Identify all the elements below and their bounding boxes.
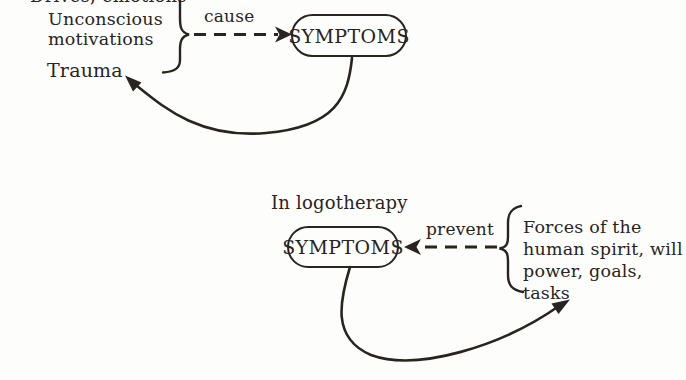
feedback-curve-top	[132, 58, 352, 134]
unconscious-motivations-label: Unconscious motivations	[48, 9, 163, 49]
drives-emotions-label: Drives, emotions	[30, 0, 187, 6]
in-logotherapy-label: In logotherapy	[271, 193, 408, 213]
trauma-label: Trauma	[47, 60, 123, 80]
symptoms-node-top: SYMPTOMS	[291, 14, 407, 57]
causes-brace	[163, 0, 189, 73]
prevent-label: prevent	[426, 219, 494, 239]
symptoms-label-top: SYMPTOMS	[288, 25, 410, 47]
forces-label: Forces of the human spirit, will power, …	[523, 216, 686, 304]
prevent-arrowhead-icon	[404, 239, 421, 255]
symptoms-label-bottom: SYMPTOMS	[282, 236, 404, 258]
diagram-canvas: Drives, emotions Unconscious motivations…	[0, 0, 686, 380]
cause-label: cause	[204, 6, 254, 26]
forces-brace	[500, 206, 524, 292]
diagram-strokes-layer	[0, 0, 686, 380]
symptoms-node-bottom: SYMPTOMS	[287, 226, 399, 268]
